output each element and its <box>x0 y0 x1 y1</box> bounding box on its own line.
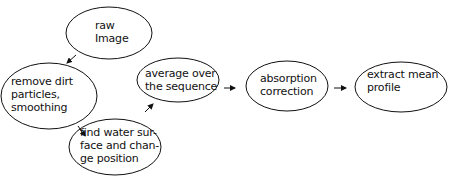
node-find-water-surface-label: find water sur- face and chan- ge positi… <box>80 126 159 165</box>
flowchart-canvas: raw Image remove dirt particles, smoothi… <box>0 0 451 178</box>
node-remove-dirt-label: remove dirt particles, smoothing <box>11 75 73 114</box>
label-line: raw <box>95 19 128 32</box>
label-line: profile <box>367 81 438 94</box>
label-line: average over <box>145 67 217 80</box>
node-absorption-correction-label: absorption correction <box>260 72 317 98</box>
label-line: extract mean <box>367 68 438 81</box>
node-raw-image-label: raw Image <box>95 19 128 45</box>
label-line: Image <box>95 32 128 45</box>
arrow-find-to-average <box>145 104 153 112</box>
label-line: smoothing <box>11 101 73 114</box>
label-line: ge position <box>80 152 159 165</box>
label-line: correction <box>260 85 317 98</box>
label-line: particles, <box>11 88 73 101</box>
node-average-label: average over the sequence <box>145 67 217 93</box>
label-line: face and chan- <box>80 139 159 152</box>
node-extract-mean-profile-label: extract mean profile <box>367 68 438 94</box>
label-line: find water sur- <box>80 126 159 139</box>
label-line: the sequence <box>145 80 217 93</box>
arrow-raw-to-remove <box>67 55 76 63</box>
label-line: absorption <box>260 72 317 85</box>
label-line: remove dirt <box>11 75 73 88</box>
